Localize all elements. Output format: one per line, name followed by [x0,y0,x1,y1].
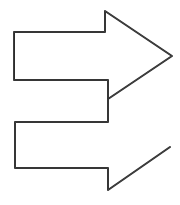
canvas-background [0,0,180,205]
double-arrow-illustration [0,0,180,205]
drawing-canvas [0,0,180,205]
